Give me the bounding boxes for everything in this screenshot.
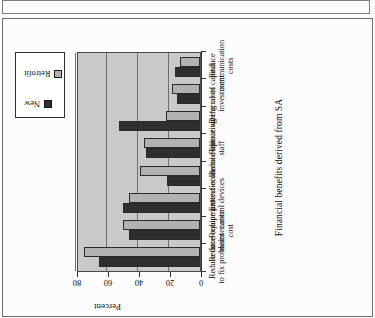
bar-retrofit: [172, 84, 200, 94]
bar-group: [78, 57, 200, 77]
bar-new: [123, 203, 201, 213]
rotated-chart: Financial benefits derived from SA NewRe…: [3, 19, 374, 316]
bar-group: [78, 111, 200, 131]
bar-retrofit: [140, 166, 200, 176]
bar-group: [78, 220, 200, 240]
bar-groups: [78, 53, 200, 271]
gridline: [75, 53, 76, 271]
bar-retrofit: [123, 220, 201, 230]
value-tick-label: 0: [199, 279, 203, 288]
category-axis-line: [201, 52, 202, 272]
bar-group: [78, 247, 200, 267]
category-tick: [201, 216, 206, 217]
category-tick: [201, 79, 206, 80]
legend-item-retrofit: Retrofit: [24, 69, 62, 79]
bar-new: [119, 121, 200, 131]
bar-new: [129, 230, 200, 240]
value-tick-label: 20: [166, 279, 175, 288]
bar-retrofit: [129, 193, 200, 203]
legend-swatch: [44, 100, 52, 108]
legend-label: New: [24, 99, 40, 109]
bar-group: [78, 166, 200, 186]
category-tick: [201, 189, 206, 190]
page-top-strip: [2, 0, 370, 14]
bar-new: [99, 257, 200, 267]
chart-stage: Financial benefits derived from SA NewRe…: [3, 19, 374, 316]
bar-group: [78, 193, 200, 213]
bar-new: [175, 67, 200, 77]
value-tick-label: 40: [135, 279, 144, 288]
bar-retrofit: [84, 247, 200, 257]
bar-group: [78, 84, 200, 104]
value-tick: [201, 272, 202, 277]
category-tick: [201, 271, 206, 272]
bar-new: [167, 176, 200, 186]
category-tick: [201, 134, 206, 135]
value-tick: [170, 272, 171, 277]
value-tick: [77, 272, 78, 277]
bar-new: [146, 148, 200, 158]
value-tick: [108, 272, 109, 277]
category-tick: [201, 106, 206, 107]
chart-title: Financial benefits derived from SA: [274, 19, 284, 316]
figure-frame: Financial benefits derived from SA NewRe…: [2, 18, 373, 317]
value-tick-label: 80: [73, 279, 82, 288]
bar-retrofit: [144, 138, 200, 148]
legend-label: Retrofit: [24, 69, 50, 79]
value-tick-label: 60: [104, 279, 113, 288]
category-tick: [201, 51, 206, 52]
legend-item-new: New: [24, 99, 52, 109]
legend: NewRetrofit: [15, 52, 65, 118]
category-tick: [201, 161, 206, 162]
legend-swatch: [54, 70, 62, 78]
plot-area: [77, 52, 201, 272]
bar-retrofit: [180, 57, 200, 67]
bar-new: [177, 94, 200, 104]
value-tick: [139, 272, 140, 277]
value-axis-title: Percent: [94, 302, 121, 312]
scanned-page: Financial benefits derived from SA NewRe…: [0, 0, 375, 318]
category-tick: [201, 244, 206, 245]
bar-retrofit: [166, 111, 200, 121]
bar-group: [78, 138, 200, 158]
category-label: Reduce communicationcosts: [209, 27, 236, 105]
